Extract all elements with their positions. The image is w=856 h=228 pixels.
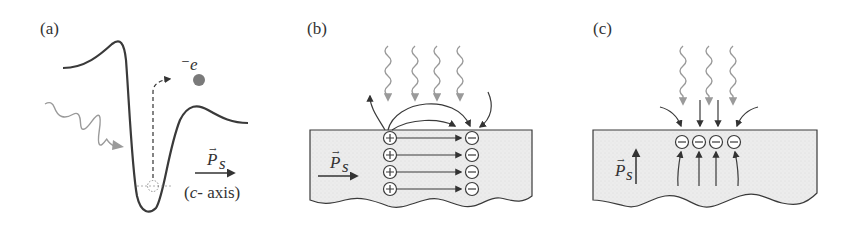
panel-c-label: (c) [593,19,612,38]
panel-c: (c) P s → [593,19,817,207]
panel-b: (b) [307,19,532,207]
panel-a: (a) ⁻e P s → (c- axis) [38,19,248,212]
vector-arrow-icon: → [209,144,217,154]
photon-waves [385,46,463,100]
polarization-subscript: s [342,157,349,176]
electron-icon [193,74,205,86]
vector-arrow-icon: → [617,155,625,165]
panel-b-label: (b) [307,19,327,38]
vector-arrow-icon: → [332,147,340,157]
polarization-subscript: s [626,165,633,184]
polarization-subscript: s [219,154,226,173]
photon-arrowhead-icon [112,140,124,150]
axis-label: (c- axis) [184,183,240,202]
photon-waves [680,46,736,104]
panel-a-label: (a) [40,19,59,38]
photon-wave-icon [38,97,123,150]
electron-label: ⁻e [181,55,198,74]
